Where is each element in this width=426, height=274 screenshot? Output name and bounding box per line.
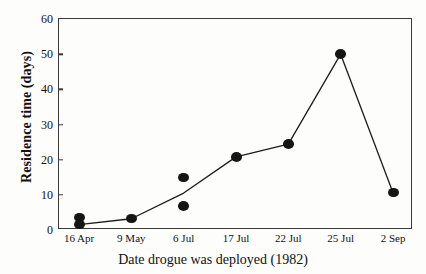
y-tick-label: 10 [19, 189, 53, 201]
data-point [178, 173, 189, 183]
y-tick-label: 0 [19, 224, 53, 236]
y-tick-mark [59, 124, 63, 125]
x-tick-label: 22 Jul [275, 233, 302, 244]
x-tick-label: 6 Jul [173, 233, 194, 244]
series-line [59, 19, 413, 230]
plot-area: 0102030405060 16 Apr9 May6 Jul17 Jul22 J… [58, 18, 412, 229]
y-tick-mark [59, 194, 63, 195]
x-tick-label: 2 Sep [381, 233, 406, 244]
y-tick-label: 30 [19, 119, 53, 131]
x-tick-label: 25 Jul [327, 233, 354, 244]
y-tick-mark [59, 89, 63, 90]
x-tick-label: 16 Apr [64, 233, 94, 244]
chart-screenshot: Residence time (days) 0102030405060 16 A… [0, 0, 426, 274]
y-tick-mark [59, 159, 63, 160]
y-axis-title: Residence time (days) [19, 17, 35, 217]
y-tick-label: 60 [19, 13, 53, 25]
data-point [388, 188, 399, 198]
data-point [74, 220, 85, 230]
x-axis-title: Date drogue was deployed (1982) [0, 252, 426, 268]
series-polyline [79, 54, 393, 225]
y-tick-mark [59, 53, 63, 54]
data-point [335, 49, 346, 59]
data-point [178, 201, 189, 211]
data-point [283, 139, 294, 149]
x-tick-label: 17 Jul [223, 233, 250, 244]
y-tick-label: 40 [19, 83, 53, 95]
x-tick-label: 9 May [117, 233, 145, 244]
y-tick-label: 20 [19, 154, 53, 166]
data-point [231, 152, 242, 162]
y-tick-label: 50 [19, 48, 53, 60]
